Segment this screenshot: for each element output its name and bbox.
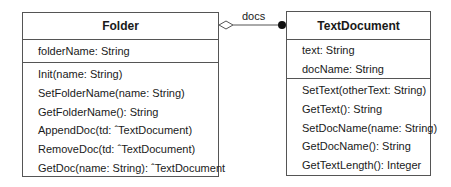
operation: RemoveDoc(td: ˆTextDocument) bbox=[38, 140, 218, 159]
attributes-section: text: String docName: String bbox=[287, 40, 430, 79]
operation: SetText(otherText: String) bbox=[302, 81, 430, 100]
class-folder[interactable]: Folder folderName: String Init(name: Str… bbox=[22, 12, 219, 177]
class-name: Folder bbox=[23, 13, 218, 40]
operation: SetFolderName(name: String) bbox=[38, 84, 218, 103]
operations-section: SetText(otherText: String) GetText(): St… bbox=[287, 79, 430, 175]
operation: GetDoc(name: String): ˆTextDocument bbox=[38, 159, 218, 178]
operation: Init(name: String) bbox=[38, 65, 218, 84]
attributes-section: folderName: String bbox=[23, 40, 218, 63]
operation: GetDocName(): String bbox=[302, 137, 430, 156]
operation: GetFolderName(): String bbox=[38, 103, 218, 122]
class-textdocument[interactable]: TextDocument text: String docName: Strin… bbox=[286, 11, 431, 176]
class-name: TextDocument bbox=[287, 12, 430, 40]
operation: SetDocName(name: String) bbox=[302, 119, 430, 138]
association-label: docs bbox=[242, 10, 265, 22]
operation: GetText(): String bbox=[302, 100, 430, 119]
operation: AppendDoc(td: ˆTextDocument) bbox=[38, 121, 218, 140]
multiplicity-dot-icon bbox=[278, 21, 286, 29]
aggregation-diamond-icon bbox=[219, 21, 233, 29]
operations-section: Init(name: String) SetFolderName(name: S… bbox=[23, 63, 218, 178]
attribute: folderName: String bbox=[38, 42, 218, 61]
attribute: text: String bbox=[302, 41, 430, 60]
attribute: docName: String bbox=[302, 60, 430, 79]
operation: GetTextLength(): Integer bbox=[302, 156, 430, 175]
